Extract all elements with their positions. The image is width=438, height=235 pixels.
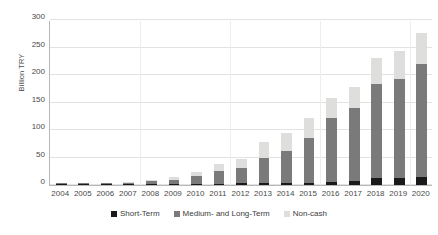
gridline-vertical [140, 21, 141, 185]
bar-stack[interactable] [304, 118, 315, 185]
x-axis-tick-label: 2013 [252, 188, 275, 200]
x-axis-tick-label: 2016 [319, 188, 342, 200]
bar-segment-medium-long-term [281, 151, 292, 183]
y-axis-tick-label: 200 [1, 68, 45, 76]
x-axis-tick-labels: 2004200520062007200820092010201120122013… [49, 188, 432, 202]
x-axis-tick-label: 2017 [342, 188, 365, 200]
bar-segment-short-term [281, 183, 292, 185]
x-axis-tick-label: 2019 [387, 188, 410, 200]
y-axis-tick-label: 250 [1, 41, 45, 49]
legend-item[interactable]: Non-cash [284, 209, 327, 218]
y-axis-tick-label: 100 [1, 123, 45, 131]
gridline-vertical [410, 21, 411, 185]
bar-segment-non-cash [236, 159, 247, 168]
bar-segment-non-cash [281, 133, 292, 151]
bar-stack[interactable] [281, 133, 292, 185]
bar-segment-short-term [349, 181, 360, 185]
legend-label: Short-Term [120, 209, 160, 218]
bar-stack[interactable] [78, 183, 89, 185]
bar-segment-short-term [146, 184, 157, 185]
x-axis-tick-label: 2008 [139, 188, 162, 200]
y-axis-tick-label: 300 [1, 13, 45, 21]
y-axis-tick-labels: 050100150200250300 [0, 21, 45, 186]
y-axis-tick-label: 0 [1, 178, 45, 186]
legend-label: Medium- and Long-Term [183, 209, 270, 218]
bar-stack[interactable] [214, 164, 225, 185]
bar-segment-medium-long-term [214, 171, 225, 184]
bar-stack[interactable] [371, 58, 382, 185]
bar-segment-medium-long-term [394, 79, 405, 179]
bar-stack[interactable] [326, 98, 337, 185]
bar-segment-non-cash [349, 87, 360, 109]
legend-swatch-icon [111, 211, 117, 217]
bar-segment-medium-long-term [371, 84, 382, 178]
bar-segment-medium-long-term [259, 158, 270, 183]
bar-stack[interactable] [394, 51, 405, 185]
bar-segment-medium-long-term [304, 138, 315, 183]
bar-stack[interactable] [123, 182, 134, 185]
x-axis-tick-label: 2006 [94, 188, 117, 200]
bar-segment-medium-long-term [416, 64, 427, 177]
x-axis-tick-label: 2015 [297, 188, 320, 200]
x-axis-tick-label: 2007 [117, 188, 140, 200]
bar-segment-short-term [304, 183, 315, 185]
bar-segment-non-cash [394, 51, 405, 79]
x-axis-tick-label: 2005 [72, 188, 95, 200]
bar-segment-short-term [371, 178, 382, 185]
bar-segment-short-term [123, 184, 134, 185]
chart-legend: Short-TermMedium- and Long-TermNon-cash [0, 209, 438, 218]
x-axis-tick-label: 2009 [162, 188, 185, 200]
bar-segment-short-term [78, 184, 89, 185]
bar-segment-non-cash [214, 164, 225, 171]
bar-stack[interactable] [56, 183, 67, 185]
gridline-vertical [320, 21, 321, 185]
bar-segment-short-term [191, 184, 202, 185]
gridline-vertical [230, 21, 231, 185]
x-axis-tick-label: 2011 [207, 188, 230, 200]
bar-segment-medium-long-term [326, 118, 337, 181]
bar-stack[interactable] [416, 33, 427, 185]
bar-segment-non-cash [304, 118, 315, 138]
x-axis-tick-label: 2020 [409, 188, 432, 200]
legend-swatch-icon [284, 211, 290, 217]
legend-item[interactable]: Short-Term [111, 209, 160, 218]
stacked-bar-chart: Billion TRY 050100150200250300 200420052… [0, 0, 438, 235]
bar-stack[interactable] [349, 87, 360, 185]
plot-area [49, 21, 432, 186]
bar-segment-short-term [56, 184, 67, 185]
bar-segment-short-term [259, 183, 270, 185]
x-axis-tick-label: 2010 [184, 188, 207, 200]
legend-label: Non-cash [293, 209, 327, 218]
x-axis-tick-label: 2014 [274, 188, 297, 200]
bar-segment-short-term [416, 177, 427, 185]
bar-stack[interactable] [259, 142, 270, 185]
legend-item[interactable]: Medium- and Long-Term [174, 209, 270, 218]
x-axis-tick-label: 2012 [229, 188, 252, 200]
bar-stack[interactable] [146, 180, 157, 185]
bar-segment-short-term [236, 183, 247, 185]
bar-stack[interactable] [169, 177, 180, 185]
bar-segment-short-term [214, 184, 225, 185]
x-axis-tick-label: 2018 [364, 188, 387, 200]
y-axis-tick-label: 150 [1, 96, 45, 104]
bar-segment-non-cash [371, 58, 382, 84]
bar-segment-non-cash [259, 142, 270, 158]
gridline-horizontal [50, 19, 432, 20]
bar-segment-short-term [326, 182, 337, 185]
bar-segment-medium-long-term [191, 176, 202, 183]
bar-segment-short-term [394, 178, 405, 185]
bar-segment-short-term [169, 184, 180, 185]
bar-segment-non-cash [326, 98, 337, 118]
bar-segment-medium-long-term [349, 108, 360, 180]
gridline-horizontal [50, 47, 432, 48]
legend-swatch-icon [174, 211, 180, 217]
bar-segment-short-term [101, 184, 112, 185]
bar-segment-medium-long-term [236, 168, 247, 183]
bar-stack[interactable] [236, 159, 247, 185]
bar-stack[interactable] [101, 183, 112, 185]
x-axis-tick-label: 2004 [49, 188, 72, 200]
bar-stack[interactable] [191, 172, 202, 185]
y-axis-tick-label: 50 [1, 151, 45, 159]
bar-segment-non-cash [416, 33, 427, 64]
